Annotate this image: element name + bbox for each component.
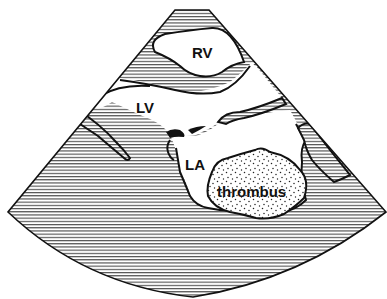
label-la: LA <box>185 156 205 173</box>
echo-diagram: RV LV LA thrombus <box>0 0 387 299</box>
label-thrombus: thrombus <box>217 183 286 200</box>
label-lv: LV <box>136 99 154 116</box>
diagram-canvas: RV LV LA thrombus <box>0 0 387 299</box>
label-rv: RV <box>192 44 213 61</box>
